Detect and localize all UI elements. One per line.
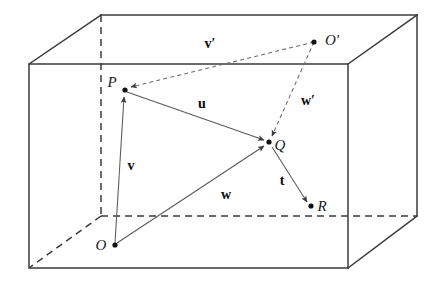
vector-w-prime-arrow [272, 42, 314, 136]
vector-label-w-prime: w′ [301, 93, 315, 108]
point-label-O-prime: O′ [325, 32, 340, 48]
point-dot-O-prime [311, 39, 316, 44]
vector-label-u: u [198, 96, 206, 111]
vector-t-arrow [272, 147, 307, 202]
vector-w-arrow [117, 146, 264, 243]
point-label-P: P [106, 74, 116, 90]
vector-label-w: w [221, 187, 232, 202]
figure-canvas: O P Q R O′ u v w t v′ w′ [0, 0, 437, 292]
point-dot-P [122, 87, 127, 92]
box-edge-depth-top-left [29, 15, 101, 64]
vector-group-primed [131, 42, 314, 136]
box-hidden-edges [29, 15, 417, 268]
vector-label-t: t [280, 173, 285, 188]
vector-u-arrow [127, 92, 264, 140]
point-label-Q: Q [275, 137, 286, 153]
point-dot-O [112, 242, 117, 247]
point-dot-Q [266, 139, 271, 144]
vector-v-arrow [115, 97, 124, 243]
box-edge-depth-top-right [348, 15, 417, 64]
point-label-R: R [316, 198, 326, 214]
box-edge-depth-bottom-right [348, 216, 417, 268]
vector-label-v: v [128, 158, 135, 173]
box-visible-edges [29, 15, 417, 268]
vector-label-v-prime: v′ [205, 36, 216, 51]
vector-group-solid [115, 92, 307, 243]
vector-labels: u v w t v′ w′ [128, 36, 316, 202]
point-dot-R [308, 203, 313, 208]
box-edge-bottom-left-diagonal [29, 216, 101, 268]
vector-box-diagram: O P Q R O′ u v w t v′ w′ [0, 0, 437, 292]
point-label-O: O [96, 237, 107, 253]
